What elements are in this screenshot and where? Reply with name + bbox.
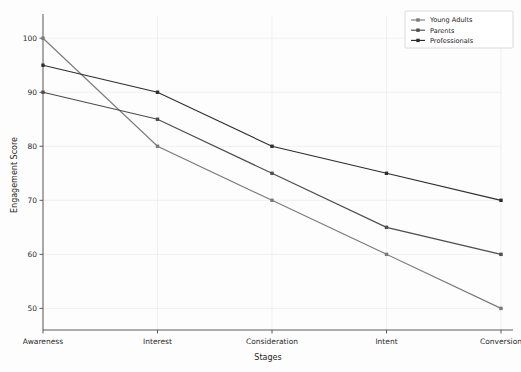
data-point — [156, 91, 159, 94]
legend-label: Parents — [430, 27, 455, 35]
data-point — [385, 226, 388, 229]
data-point — [41, 37, 44, 40]
legend-marker-swatch — [416, 39, 419, 42]
legend-label: Professionals — [430, 37, 474, 45]
line-chart: 5060708090100 AwarenessInterestConsidera… — [0, 0, 521, 372]
y-tick-label: 70 — [27, 196, 37, 205]
y-tick-label: 50 — [27, 304, 37, 313]
legend-label: Young Adults — [429, 16, 473, 24]
chart-legend: Young AdultsParentsProfessionals — [405, 11, 513, 48]
legend-marker-swatch — [416, 18, 419, 21]
x-tick-label: Awareness — [23, 337, 63, 346]
data-point — [41, 64, 44, 67]
data-point — [499, 307, 502, 310]
y-tick-label: 100 — [23, 34, 38, 43]
data-point — [156, 145, 159, 148]
x-axis-title: Stages — [254, 353, 281, 362]
x-tick-label: Consideration — [246, 337, 298, 346]
data-point — [499, 199, 502, 202]
data-point — [270, 172, 273, 175]
x-tick-label: Conversion — [480, 337, 521, 346]
data-point — [499, 253, 502, 256]
data-point — [156, 118, 159, 121]
data-point — [385, 172, 388, 175]
legend-marker-swatch — [416, 29, 419, 32]
y-tick-label: 90 — [27, 88, 37, 97]
chart-background — [0, 0, 521, 372]
data-point — [270, 145, 273, 148]
y-tick-label: 60 — [27, 250, 37, 259]
data-point — [41, 91, 44, 94]
x-tick-label: Intent — [375, 337, 397, 346]
chart-canvas: 5060708090100 AwarenessInterestConsidera… — [0, 0, 521, 372]
x-tick-label: Interest — [143, 337, 172, 346]
data-point — [270, 199, 273, 202]
y-tick-label: 80 — [27, 142, 37, 151]
y-axis-title: Engagement Score — [10, 137, 19, 213]
data-point — [385, 253, 388, 256]
